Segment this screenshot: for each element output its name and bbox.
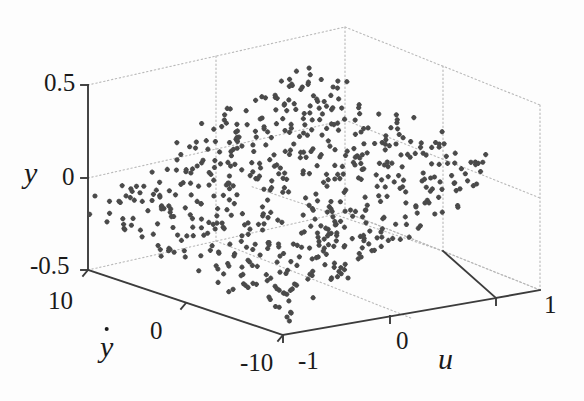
scatter-marker xyxy=(326,138,331,143)
tick-label-u-1: 1 xyxy=(544,292,557,317)
scatter-marker xyxy=(274,121,279,126)
scatter-marker xyxy=(284,108,289,113)
scatter-marker xyxy=(120,216,125,221)
scatter-marker xyxy=(403,214,408,219)
scatter-marker xyxy=(104,219,109,224)
scatter-marker xyxy=(280,116,285,121)
scatter-marker xyxy=(250,142,255,147)
scatter-marker xyxy=(293,107,298,112)
scatter-marker xyxy=(301,116,306,121)
scatter-marker xyxy=(328,199,333,204)
scatter-marker xyxy=(340,164,345,169)
scatter-marker xyxy=(170,225,175,230)
scatter-marker xyxy=(326,242,331,247)
scatter-marker xyxy=(213,139,218,144)
scatter-marker xyxy=(442,141,447,146)
scatter-marker xyxy=(274,260,279,265)
scatter-marker xyxy=(392,179,397,184)
scatter-marker xyxy=(343,262,348,267)
scatter-marker xyxy=(175,232,180,237)
ydot-overdot-icon xyxy=(104,327,108,331)
scatter-marker xyxy=(283,149,288,154)
scatter-marker xyxy=(403,189,408,194)
scatter-marker xyxy=(322,99,327,104)
scatter-marker xyxy=(307,110,312,115)
scatter-marker xyxy=(383,133,388,138)
scatter-marker xyxy=(357,111,362,116)
gridline-floor-mid-ydot xyxy=(216,241,411,318)
scatter-marker xyxy=(232,201,237,206)
scatter-marker xyxy=(141,184,146,189)
tick-label-ydot-neg10: -10 xyxy=(240,350,273,375)
scatter-marker xyxy=(172,250,177,255)
scatter-marker xyxy=(429,161,434,166)
scatter-marker xyxy=(174,140,179,145)
scatter-marker xyxy=(400,164,405,169)
scatter-marker xyxy=(193,145,198,150)
scatter-marker xyxy=(459,166,464,171)
scatter-marker xyxy=(358,161,363,166)
scatter-marker xyxy=(401,178,406,183)
scatter-marker xyxy=(292,101,297,106)
scatter-marker xyxy=(324,172,329,177)
scatter-marker xyxy=(327,144,332,149)
scatter-marker xyxy=(253,98,258,103)
scatter-marker xyxy=(189,192,194,197)
scatter-marker xyxy=(365,150,370,155)
scatter-marker xyxy=(436,195,441,200)
scatter-marker xyxy=(294,263,299,268)
scatter-marker xyxy=(211,178,216,183)
scatter-marker xyxy=(310,117,315,122)
scatter-points xyxy=(87,65,488,323)
scatter-marker xyxy=(411,115,416,120)
tick-label-u-neg1: -1 xyxy=(298,348,319,373)
scatter-marker xyxy=(257,161,262,166)
scatter-marker xyxy=(286,189,291,194)
scatter-marker xyxy=(250,247,255,252)
scatter-marker xyxy=(468,160,473,165)
scatter-marker xyxy=(332,147,337,152)
scatter-marker xyxy=(394,112,399,117)
scatter-marker xyxy=(195,163,200,168)
scatter-marker xyxy=(383,184,388,189)
tick-label-y-mid: 0 xyxy=(62,164,75,189)
scatter-marker xyxy=(350,236,355,241)
scatter-marker xyxy=(138,228,143,233)
scatter-marker xyxy=(261,187,266,192)
scatter-marker xyxy=(374,172,379,177)
scatter-marker xyxy=(221,193,226,198)
scatter-marker xyxy=(134,184,139,189)
scatter-marker xyxy=(282,185,287,190)
scatter-marker xyxy=(155,221,160,226)
scatter-marker xyxy=(393,222,398,227)
scatter-marker xyxy=(338,219,343,224)
scatter-marker xyxy=(289,122,294,127)
scatter-marker xyxy=(140,199,145,204)
scatter-marker xyxy=(151,232,156,237)
scatter-marker xyxy=(271,152,276,157)
scatter-marker xyxy=(174,168,179,173)
scatter-marker xyxy=(372,141,377,146)
scatter-marker xyxy=(331,244,336,249)
scatter-marker xyxy=(227,197,232,202)
scatter-marker xyxy=(264,272,269,277)
scatter-marker xyxy=(361,141,366,146)
scatter-marker xyxy=(120,183,125,188)
scatter-marker xyxy=(234,192,239,197)
scatter-marker xyxy=(139,234,144,239)
tick-label-ydot-10: 10 xyxy=(48,288,73,313)
scatter-marker xyxy=(279,79,284,84)
scatter-marker xyxy=(322,262,327,267)
scatter-marker xyxy=(353,117,358,122)
scatter-marker xyxy=(258,253,263,258)
scatter-marker xyxy=(196,268,201,273)
scatter-marker xyxy=(328,93,333,98)
scatter-marker xyxy=(379,244,384,249)
scatter-marker xyxy=(276,171,281,176)
scatter-marker xyxy=(386,174,391,179)
scatter-marker xyxy=(199,121,204,126)
scatter-marker xyxy=(463,171,468,176)
tick-label-y-bottom: -0.5 xyxy=(30,253,70,278)
scatter-marker xyxy=(313,191,318,196)
scatter-marker xyxy=(375,184,380,189)
